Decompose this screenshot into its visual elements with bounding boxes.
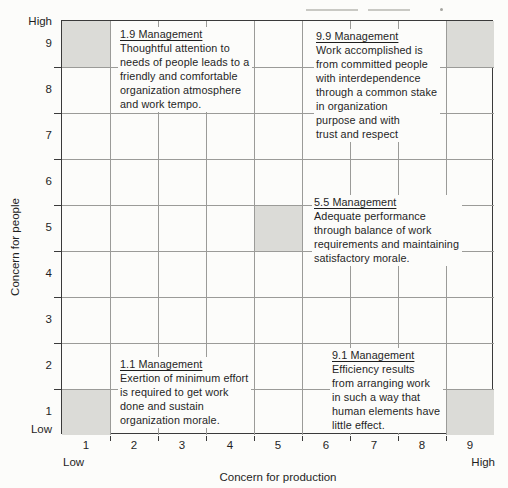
x-axis-low-label: Low	[63, 456, 84, 469]
management-block-1-9: 1.9 Management Thoughtful attention to n…	[118, 27, 252, 112]
y-tick-label: 2	[30, 358, 52, 372]
y-axis-title: Concern for people	[9, 198, 21, 296]
y-tick-label: 9	[30, 36, 52, 50]
axis-tick	[254, 436, 255, 441]
y-axis-low-label: Low	[14, 423, 52, 436]
x-tick-label: 7	[350, 438, 398, 452]
shaded-cell	[446, 21, 494, 67]
grid-line-horizontal	[62, 297, 494, 298]
grid-plot-area: 1.9 Management Thoughtful attention to n…	[61, 20, 493, 434]
x-tick-label: 8	[398, 438, 446, 452]
axis-tick	[350, 436, 351, 441]
x-tick-label: 5	[254, 438, 302, 452]
axis-tick	[54, 343, 61, 344]
x-tick-label: 3	[158, 438, 206, 452]
grid-line-horizontal	[62, 159, 494, 160]
x-axis-title: Concern for production	[62, 471, 494, 483]
y-tick-label: 1	[30, 404, 52, 418]
y-axis-high-label: High	[14, 15, 52, 28]
x-tick-label: 1	[62, 438, 110, 452]
block-text: Work accomplished is from committed peop…	[316, 43, 437, 141]
scan-artifact	[440, 8, 443, 11]
axis-tick	[54, 67, 61, 68]
block-title: 9.9 Management	[316, 29, 398, 43]
block-text: Thoughtful attention to needs of people …	[120, 41, 249, 111]
y-tick-label: 3	[30, 312, 52, 326]
block-text: Efficiency results from arranging work i…	[332, 362, 440, 432]
axis-tick	[110, 436, 111, 441]
axis-tick	[54, 205, 61, 206]
shaded-cell	[254, 205, 302, 251]
shaded-cell	[446, 389, 494, 435]
x-axis-high-label: High	[455, 456, 495, 469]
block-title: 1.9 Management	[120, 27, 202, 41]
grid-line-vertical	[302, 21, 303, 435]
axis-tick	[302, 436, 303, 441]
management-block-5-5: 5.5 Management Adequate performance thro…	[312, 195, 462, 266]
x-tick-label: 9	[446, 438, 494, 452]
management-block-1-1: 1.1 Management Exertion of minimum effor…	[118, 357, 251, 428]
y-tick-label: 4	[30, 266, 52, 280]
management-block-9-9: 9.9 Management Work accomplished is from…	[314, 29, 440, 142]
block-text: Exertion of minimum effort is required t…	[120, 371, 248, 427]
axis-tick	[54, 159, 61, 160]
axis-tick	[54, 389, 61, 390]
axis-tick	[398, 436, 399, 441]
scan-artifact	[306, 9, 358, 11]
grid-line-vertical	[254, 21, 255, 435]
y-tick-label: 5	[30, 220, 52, 234]
block-text: Adequate performance through balance of …	[314, 209, 459, 265]
y-tick-label: 8	[30, 82, 52, 96]
management-block-9-1: 9.1 Management Efficiency results from a…	[330, 348, 443, 433]
x-tick-label: 4	[206, 438, 254, 452]
axis-tick	[54, 251, 61, 252]
shaded-cell	[62, 389, 110, 435]
axis-tick	[54, 113, 61, 114]
axis-tick	[158, 436, 159, 441]
block-title: 9.1 Management	[332, 348, 414, 362]
block-title: 5.5 Management	[314, 195, 396, 209]
y-tick-label: 7	[30, 128, 52, 142]
blake-mouton-managerial-grid-figure: High Low Low High Concern for people Con…	[0, 0, 508, 488]
axis-tick	[446, 436, 447, 441]
axis-tick	[54, 297, 61, 298]
scan-artifact	[368, 9, 410, 11]
axis-tick	[206, 436, 207, 441]
x-tick-label: 6	[302, 438, 350, 452]
shaded-cell	[62, 21, 110, 67]
x-tick-label: 2	[110, 438, 158, 452]
grid-line-vertical	[110, 21, 111, 435]
block-title: 1.1 Management	[120, 357, 202, 371]
grid-line-horizontal	[62, 343, 494, 344]
y-tick-label: 6	[30, 174, 52, 188]
